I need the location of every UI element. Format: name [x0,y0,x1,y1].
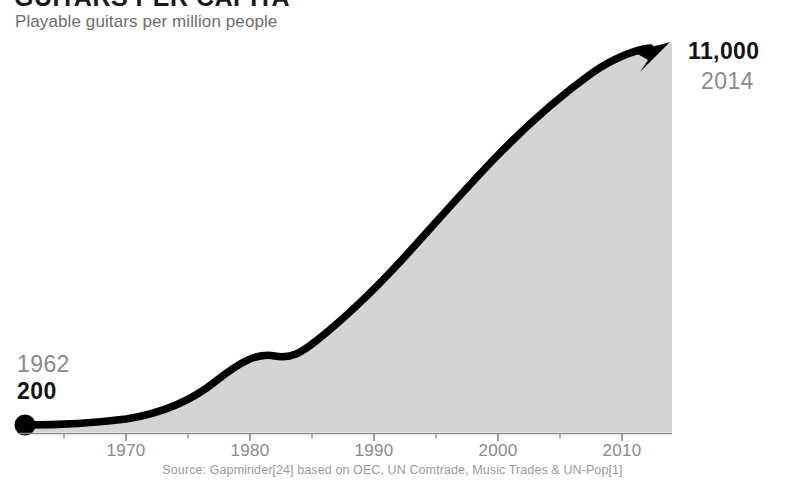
area-fill [25,44,672,432]
area-chart-svg [0,0,785,499]
source-note: Source: Gapminder[24] based on OEC, UN C… [0,463,785,477]
x-tick-label-1970: 1970 [106,441,145,461]
end-value-label: 11,000 [688,38,759,65]
x-tick-label-1990: 1990 [354,441,393,461]
start-value-label: 200 [17,378,57,405]
x-tick-label-2000: 2000 [478,441,517,461]
x-tick-label-1980: 1980 [230,441,269,461]
x-tick-label-2010: 2010 [602,441,641,461]
end-year-label: 2014 [701,68,754,95]
start-point-marker [15,415,36,436]
start-year-label: 1962 [17,351,70,378]
x-axis-major-ticks [126,434,622,442]
chart-plot-area [0,0,785,499]
